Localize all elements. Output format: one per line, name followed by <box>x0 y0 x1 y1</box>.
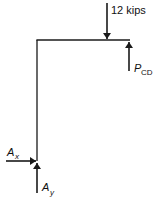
free-body-diagram: 12 kips P CD A x A y <box>0 0 159 201</box>
reaction-ax: A x <box>6 146 36 161</box>
ay-label-symbol: A <box>41 181 49 193</box>
pcd-label-subscript: CD <box>141 68 153 77</box>
frame-member <box>36 40 130 161</box>
applied-load-12-kips: 12 kips <box>107 3 146 39</box>
ax-label-subscript: x <box>14 152 20 161</box>
member-force-pcd: P CD <box>129 42 153 77</box>
ay-label-subscript: y <box>49 188 55 197</box>
reaction-ay: A y <box>37 163 55 197</box>
ax-label-symbol: A <box>6 146 14 158</box>
load-label: 12 kips <box>111 4 146 16</box>
